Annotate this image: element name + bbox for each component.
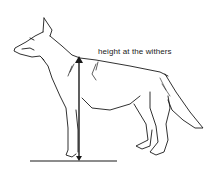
tail [165, 74, 203, 128]
withers-label: height at the withers [98, 47, 172, 56]
chest [42, 58, 76, 157]
back-line [50, 36, 168, 76]
belly [82, 96, 140, 110]
head [14, 32, 44, 60]
arrow-head-down-icon [76, 156, 82, 161]
hind-leg-far [134, 104, 152, 149]
diagram-canvas: height at the withers [0, 0, 220, 175]
ear [43, 18, 52, 36]
hind-leg [150, 92, 170, 155]
dog-illustration [0, 0, 220, 175]
